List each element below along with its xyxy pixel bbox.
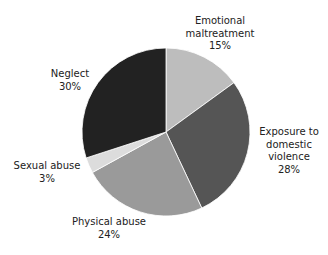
label-neglect-pct: 30%	[59, 81, 81, 92]
label-sexual-name: Sexual abuse	[14, 160, 81, 171]
label-exposure: Exposure to domestic violence28%	[250, 126, 328, 176]
label-sexual-pct: 3%	[39, 173, 55, 184]
label-emotional-pct: 15%	[209, 40, 231, 51]
label-neglect-name: Neglect	[51, 68, 89, 79]
label-exposure-pct: 28%	[278, 164, 300, 175]
label-emotional-name: Emotional maltreatment	[186, 15, 255, 39]
label-sexual: Sexual abuse3%	[10, 160, 84, 185]
label-physical: Physical abuse24%	[66, 216, 152, 241]
label-emotional: Emotional maltreatment15%	[176, 15, 264, 53]
label-neglect: Neglect30%	[40, 68, 100, 93]
label-physical-pct: 24%	[98, 229, 120, 240]
label-physical-name: Physical abuse	[72, 216, 146, 227]
label-exposure-name: Exposure to domestic violence	[259, 126, 319, 162]
